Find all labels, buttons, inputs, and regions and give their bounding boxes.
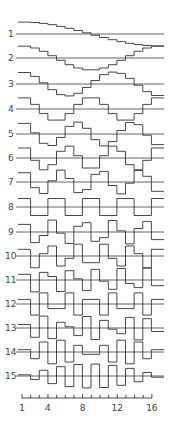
row-label: 11 (5, 275, 16, 285)
tick-label: 8 (80, 403, 86, 413)
basis-row: 1 (8, 22, 164, 46)
basis-rows: 123456789101112131415 (5, 22, 164, 388)
basis-row: 5 (8, 122, 164, 146)
tick-label: 16 (146, 403, 158, 413)
basis-row: 14 (5, 340, 164, 364)
dct-basis-diagram: 123456789101112131415 1481216 (0, 0, 172, 431)
row-label: 5 (8, 129, 14, 139)
row-label: 6 (8, 153, 14, 163)
row-label: 4 (8, 104, 14, 114)
basis-row: 12 (5, 293, 164, 315)
tick-label: 4 (45, 403, 51, 413)
row-label: 8 (8, 202, 14, 212)
basis-row: 15 (5, 364, 164, 388)
basis-row: 3 (8, 72, 164, 96)
basis-row: 6 (8, 146, 164, 170)
row-label: 15 (5, 371, 16, 381)
tick-label: 12 (112, 403, 123, 413)
row-label: 14 (5, 347, 17, 357)
basis-row: 13 (5, 316, 164, 340)
basis-row: 11 (5, 268, 164, 292)
basis-row: 8 (8, 199, 164, 216)
row-label: 10 (5, 251, 17, 261)
sample-axis: 1481216 (19, 394, 158, 413)
row-label: 7 (8, 177, 14, 187)
row-label: 12 (5, 299, 16, 309)
basis-row: 9 (8, 220, 164, 244)
row-label: 9 (8, 227, 14, 237)
basis-row: 2 (8, 46, 164, 70)
basis-row: 10 (5, 244, 164, 268)
row-label: 2 (8, 53, 14, 63)
row-label: 13 (5, 323, 16, 333)
row-label: 3 (8, 79, 14, 89)
basis-row: 7 (8, 170, 164, 194)
basis-row: 4 (8, 98, 164, 120)
row-label: 1 (8, 29, 14, 39)
tick-label: 1 (19, 403, 25, 413)
